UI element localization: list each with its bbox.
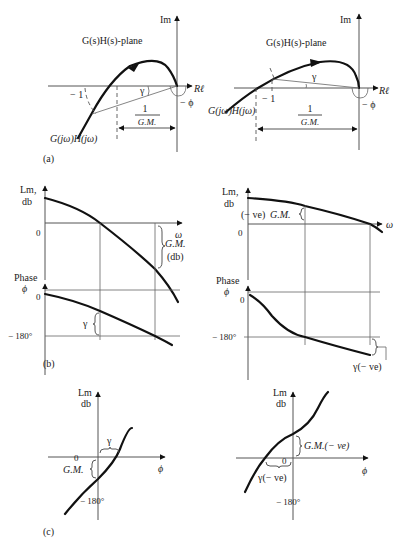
gamma-arc xyxy=(148,86,149,96)
lm-label-1: Lm, xyxy=(222,186,238,197)
gm-fraction-den: G.M. xyxy=(138,117,157,127)
phi-label: ϕ xyxy=(158,463,163,474)
gm-prefix-label: (− ve) xyxy=(241,209,265,221)
zero-label: 0 xyxy=(282,456,287,466)
unit-circle-tick xyxy=(270,68,274,78)
panel-a-label: (a) xyxy=(43,153,54,165)
lm-label-2: db xyxy=(224,198,234,209)
gm-brace xyxy=(299,208,304,220)
gamma-label: γ xyxy=(311,71,317,82)
gamma-leader xyxy=(378,347,386,360)
gamma-brace xyxy=(100,447,119,453)
gain-phase-margin-figure: Im Rℓ G(s)H(s)-plane − 1 γ − ϕ 1 G.M. G(… xyxy=(0,0,408,544)
re-label: Rℓ xyxy=(193,83,204,94)
gamma-brace xyxy=(93,313,99,335)
re-label: Rℓ xyxy=(378,85,389,96)
gm-fraction-num: 1 xyxy=(308,103,313,114)
phase-curve xyxy=(250,295,370,355)
zero-lm-label: 0 xyxy=(36,228,41,238)
phi-arc xyxy=(352,88,368,98)
panel-b-label: (b) xyxy=(43,358,55,370)
curve-label: G(jω)H(jω) xyxy=(50,133,98,145)
gm-brace xyxy=(158,226,165,268)
zero-label: 0 xyxy=(74,453,79,463)
panel-c-label: (c) xyxy=(43,526,54,538)
lm-label-2: db xyxy=(276,398,286,409)
gm-label: G.M.(− ve) xyxy=(304,440,350,452)
gm-fraction-num: 1 xyxy=(143,103,148,114)
gm-unit-label: (db) xyxy=(167,251,184,263)
panel-c-right-nichols-plot: Lm db 0 ϕ G.M.(− ve) γ(− ve) − 180° xyxy=(236,387,368,520)
minus-one-label: − 1 xyxy=(262,93,275,104)
lm-label-2: db xyxy=(22,196,32,207)
phase-label-2: ϕ xyxy=(22,283,27,294)
phase-curve xyxy=(45,294,172,345)
minus180-label: − 180° xyxy=(212,332,237,342)
im-label: Im xyxy=(340,14,351,25)
gamma-brace xyxy=(266,462,291,468)
panel-b-right-bode-plot: Lm, db 0 ω (− ve) G.M. Phase ϕ 0 − 180° … xyxy=(212,186,393,380)
magnitude-curve xyxy=(248,198,382,232)
gamma-label: γ xyxy=(106,435,112,446)
panel-b-left-bode-plot: Lm, db 0 ω G.M. (db) Phase ϕ 0 − 180° γ xyxy=(8,184,186,375)
gamma-brace xyxy=(372,339,378,355)
gm-label: G.M. xyxy=(165,238,186,249)
minus180-label: − 180° xyxy=(8,331,33,341)
omega-label: ω xyxy=(386,219,393,230)
minus-one-label: − 1 xyxy=(70,89,83,100)
minus180-label: − 180° xyxy=(276,497,301,507)
lm-label-1: Lm xyxy=(78,387,92,398)
gm-label: G.M. xyxy=(63,464,84,475)
phase-line xyxy=(92,86,177,114)
curve-label: G(jω)H(jω) xyxy=(208,105,256,117)
plane-label: G(s)H(s)-plane xyxy=(82,35,143,47)
zero-phase-label: 0 xyxy=(36,292,41,302)
minus180-label: − 180° xyxy=(80,496,105,506)
lm-label-2: db xyxy=(81,398,91,409)
gamma-label: γ xyxy=(139,85,145,96)
phase-label-2: ϕ xyxy=(224,286,229,297)
phi-label: − ϕ xyxy=(362,99,375,110)
panel-a-right-polar-plot: Im Rℓ G(s)H(s)-plane − 1 γ − ϕ G(jω)H(jω… xyxy=(208,14,389,150)
plane-label: G(s)H(s)-plane xyxy=(266,37,327,49)
im-label: Im xyxy=(160,14,171,25)
gm-fraction-den: G.M. xyxy=(301,117,320,127)
panel-a-left-polar-plot: Im Rℓ G(s)H(s)-plane − 1 γ − ϕ 1 G.M. G(… xyxy=(48,14,204,152)
gamma-label: γ xyxy=(82,318,88,329)
gm-label: G.M. xyxy=(270,209,291,220)
zero-phase-label: 0 xyxy=(240,295,245,305)
phi-label: − ϕ xyxy=(180,97,193,108)
gm-brace xyxy=(90,460,96,478)
zero-lm-label: 0 xyxy=(238,228,243,238)
magnitude-curve xyxy=(45,198,178,302)
gm-brace xyxy=(296,436,302,456)
phase-label-1: Phase xyxy=(216,275,240,286)
phase-label-1: Phase xyxy=(14,272,38,283)
phi-label: ϕ xyxy=(362,465,367,476)
lm-label-1: Lm, xyxy=(20,184,36,195)
gamma-label: γ(− ve) xyxy=(352,361,382,373)
nyquist-curve xyxy=(78,61,177,138)
panel-c-left-nichols-plot: Lm db 0 ϕ γ G.M. − 180° xyxy=(48,387,165,520)
lm-label-1: Lm xyxy=(273,387,287,398)
gamma-arc xyxy=(306,84,307,88)
gamma-label: γ(− ve) xyxy=(257,472,287,484)
